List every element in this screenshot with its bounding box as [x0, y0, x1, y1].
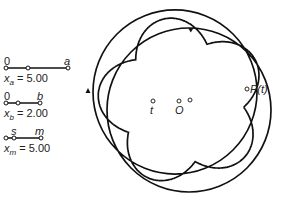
slider-b-value: xb = 2.00	[4, 108, 48, 123]
direction-arrow-icon	[86, 88, 91, 93]
slider-a-value: xa = 5.00	[4, 73, 48, 88]
slider-m-start: s	[11, 126, 17, 137]
slider-m-value: xm = 5.00	[4, 143, 50, 158]
slider-b-handle[interactable]	[16, 101, 20, 105]
point-center[interactable]	[188, 98, 192, 102]
slider-a-handle[interactable]	[26, 66, 30, 70]
slider-a-name: a	[64, 56, 70, 67]
slider-m-name: m	[35, 126, 44, 137]
slider-a-min: 0	[4, 56, 10, 67]
diagram-canvas	[0, 0, 288, 209]
point-P[interactable]	[245, 87, 249, 91]
slider-b-name: b	[37, 91, 43, 102]
slider-b-min: 0	[4, 91, 10, 102]
label-t: t	[150, 104, 153, 116]
label-P: P(t)	[250, 83, 268, 95]
point-O[interactable]	[177, 99, 181, 103]
curve-path	[93, 10, 271, 192]
label-O: O	[175, 104, 184, 116]
point-t[interactable]	[151, 99, 155, 103]
